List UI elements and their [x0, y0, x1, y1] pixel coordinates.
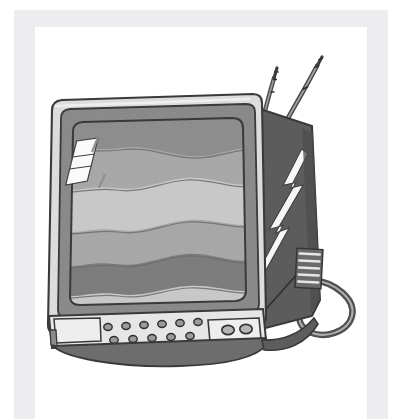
channel-button[interactable] — [122, 323, 130, 330]
channel-button[interactable] — [194, 319, 202, 326]
vent-slot — [300, 253, 320, 254]
channel-button[interactable] — [158, 321, 166, 328]
border-right-band — [367, 10, 388, 419]
ventilation-grille — [295, 248, 323, 288]
channel-button[interactable] — [186, 333, 194, 340]
channel-button[interactable] — [148, 335, 156, 342]
control-panel-left-blank — [54, 318, 101, 343]
channel-button[interactable] — [176, 320, 184, 327]
channel-button[interactable] — [140, 322, 148, 329]
tv-illustration — [0, 0, 403, 419]
knob-left[interactable] — [222, 325, 234, 334]
illustration-canvas: Vintage CRT Television old-fashioned box… — [0, 0, 403, 419]
vent-slot — [299, 260, 319, 261]
channel-button[interactable] — [129, 336, 137, 343]
vent-slot — [298, 281, 318, 282]
vent-slot — [299, 267, 319, 268]
border-top-band — [14, 10, 388, 27]
channel-button[interactable] — [110, 337, 118, 344]
tv-screen[interactable] — [60, 105, 260, 325]
screen-interference-bands — [60, 105, 260, 325]
knob-right[interactable] — [240, 324, 252, 333]
cabinet-left-foot — [50, 330, 57, 346]
vent-slot — [299, 274, 319, 275]
channel-button[interactable] — [104, 324, 112, 331]
channel-button[interactable] — [167, 334, 175, 341]
border-left-band — [14, 10, 35, 419]
